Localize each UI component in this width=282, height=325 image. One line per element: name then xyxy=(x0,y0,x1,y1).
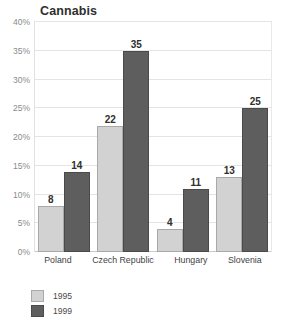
bar-hungary-1999[interactable] xyxy=(183,189,209,252)
bar-value-label: 13 xyxy=(224,165,235,176)
x-axis-label-poland: Poland xyxy=(44,255,71,265)
bar-slot: 25 xyxy=(242,22,268,252)
bar-value-label: 35 xyxy=(131,39,142,50)
legend-swatch-1995 xyxy=(31,290,44,302)
bar-slot: 22 xyxy=(97,22,123,252)
bar-poland-1995[interactable] xyxy=(38,206,64,252)
x-axis-label-slovenia: Slovenia xyxy=(228,255,262,265)
y-axis-tick-label: 10% xyxy=(2,190,30,200)
bar-value-label: 4 xyxy=(167,217,173,228)
chart-legend: 19951999 xyxy=(31,288,72,318)
y-axis-tick-label: 0% xyxy=(2,247,30,257)
legend-item-1999[interactable]: 1999 xyxy=(31,303,72,318)
y-axis-tick-label: 15% xyxy=(2,161,30,171)
bar-slot: 14 xyxy=(64,22,90,252)
y-axis-tick-label: 20% xyxy=(2,132,30,142)
y-axis-tick-label: 25% xyxy=(2,103,30,113)
bar-group: 1325 xyxy=(216,22,268,252)
legend-label-1999: 1999 xyxy=(53,306,72,316)
y-axis-tick-label: 30% xyxy=(2,75,30,85)
bar-group: 814 xyxy=(38,22,90,252)
bar-slot: 11 xyxy=(183,22,209,252)
bar-slovenia-1999[interactable] xyxy=(242,108,268,252)
y-axis-tick-label: 5% xyxy=(2,218,30,228)
bar-slot: 35 xyxy=(123,22,149,252)
bar-value-label: 22 xyxy=(105,114,116,125)
bar-value-label: 11 xyxy=(190,177,201,188)
bar-hungary-1995[interactable] xyxy=(157,229,183,252)
bar-poland-1999[interactable] xyxy=(64,172,90,253)
legend-label-1995: 1995 xyxy=(53,291,72,301)
cannabis-bar-chart: Cannabis 0%5%10%15%20%25%30%35%40% 81422… xyxy=(0,0,282,325)
bar-value-label: 8 xyxy=(48,194,54,205)
y-axis-tick-label: 40% xyxy=(2,17,30,27)
bar-slot: 4 xyxy=(157,22,183,252)
bar-value-label: 25 xyxy=(250,96,261,107)
legend-item-1995[interactable]: 1995 xyxy=(31,288,72,303)
x-axis-label-czech-republic: Czech Republic xyxy=(92,255,154,265)
x-axis-label-hungary: Hungary xyxy=(174,255,207,265)
bar-value-label: 14 xyxy=(71,160,82,171)
bar-slovenia-1995[interactable] xyxy=(216,177,242,252)
chart-title: Cannabis xyxy=(40,4,97,18)
chart-title-band: Cannabis xyxy=(34,2,272,22)
bar-slot: 13 xyxy=(216,22,242,252)
x-axis-labels: PolandCzech RepublicHungarySlovenia xyxy=(34,255,272,265)
y-axis-tick-label: 35% xyxy=(2,46,30,56)
bar-slot: 8 xyxy=(38,22,64,252)
bar-czech-republic-1995[interactable] xyxy=(97,126,123,253)
bar-group: 411 xyxy=(157,22,209,252)
legend-swatch-1999 xyxy=(31,305,44,317)
bar-czech-republic-1999[interactable] xyxy=(123,51,149,252)
bar-group: 2235 xyxy=(97,22,149,252)
bar-groups: 81422354111325 xyxy=(34,22,272,252)
